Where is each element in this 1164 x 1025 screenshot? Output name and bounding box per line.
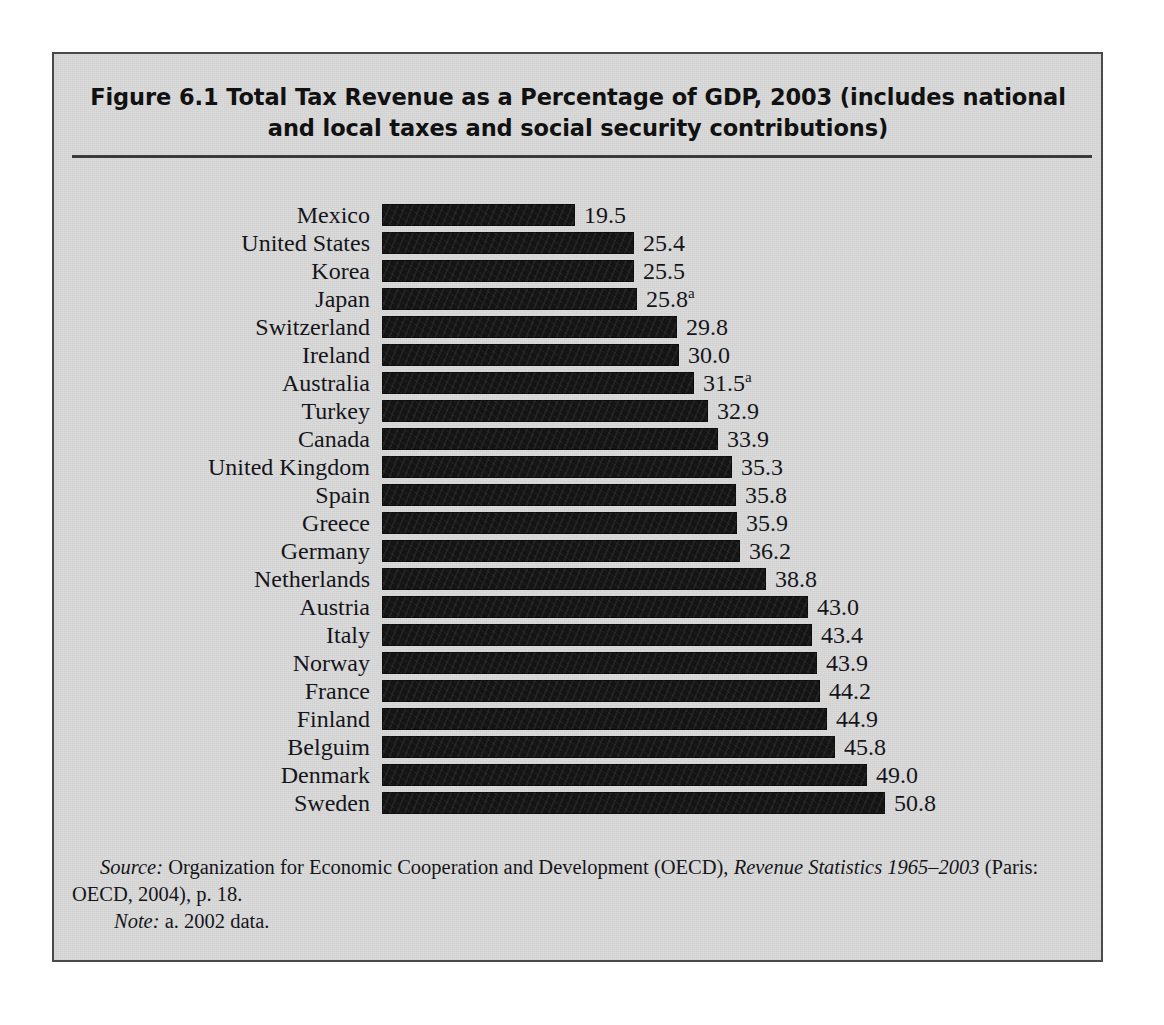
bar-track <box>382 624 812 646</box>
bar-category-label: Korea <box>50 258 370 284</box>
bar-value-label: 25.8a <box>637 286 695 312</box>
note-label: Note: <box>114 910 160 932</box>
bar-fill <box>382 400 708 422</box>
bar-value-label: 43.9 <box>817 650 868 676</box>
bar-row: United States25.4 <box>54 230 1101 258</box>
bar-track <box>382 316 677 338</box>
bar-track <box>382 652 817 674</box>
bar-category-label: Australia <box>50 370 370 396</box>
bar-fill <box>382 764 867 786</box>
bar-row: Mexico19.5 <box>54 202 1101 230</box>
bar-track <box>382 736 835 758</box>
bar-category-label: Sweden <box>50 790 370 816</box>
title-divider-rule <box>72 155 1092 158</box>
bar-fill <box>382 512 737 534</box>
bar-value-label: 25.4 <box>634 230 685 256</box>
bar-value-label: 45.8 <box>835 734 886 760</box>
bar-value-label: 44.2 <box>820 678 871 704</box>
bar-row: Spain35.8 <box>54 482 1101 510</box>
bar-track <box>382 372 694 394</box>
figure-frame: Figure 6.1 Total Tax Revenue as a Percen… <box>52 52 1103 962</box>
bar-category-label: Switzerland <box>50 314 370 340</box>
bar-track <box>382 400 708 422</box>
bar-category-label: Finland <box>50 706 370 732</box>
bar-category-label: United States <box>50 230 370 256</box>
bar-value-label: 25.5 <box>634 258 685 284</box>
bar-fill <box>382 596 808 618</box>
scanned-page: Figure 6.1 Total Tax Revenue as a Percen… <box>0 0 1164 1025</box>
bar-fill <box>382 260 634 282</box>
bar-value-label: 32.9 <box>708 398 759 424</box>
bar-value-label: 35.8 <box>736 482 787 508</box>
bar-track <box>382 540 740 562</box>
bar-fill <box>382 708 827 730</box>
bar-track <box>382 204 575 226</box>
bar-category-label: Italy <box>50 622 370 648</box>
figure-title-line-2: and local taxes and social security cont… <box>72 113 1084 144</box>
bar-track <box>382 484 736 506</box>
bar-category-label: Denmark <box>50 762 370 788</box>
bar-row: Germany36.2 <box>54 538 1101 566</box>
bar-category-label: Norway <box>50 650 370 676</box>
bar-value-label: 36.2 <box>740 538 791 564</box>
bar-row: Denmark49.0 <box>54 762 1101 790</box>
bar-value-label: 43.4 <box>812 622 863 648</box>
bar-category-label: Canada <box>50 426 370 452</box>
bar-row: Finland44.9 <box>54 706 1101 734</box>
bar-value-label: 44.9 <box>827 706 878 732</box>
bar-track <box>382 456 732 478</box>
bar-value-label: 38.8 <box>766 566 817 592</box>
bar-track <box>382 288 637 310</box>
bar-value-label: 49.0 <box>867 762 918 788</box>
bar-category-label: France <box>50 678 370 704</box>
source-publication-title: Revenue Statistics 1965–2003 <box>734 856 980 878</box>
bar-row: Italy43.4 <box>54 622 1101 650</box>
bar-track <box>382 596 808 618</box>
bar-value-label: 35.9 <box>737 510 788 536</box>
bar-track <box>382 260 634 282</box>
bar-track <box>382 512 737 534</box>
bar-category-label: Netherlands <box>50 566 370 592</box>
bar-category-label: Mexico <box>50 202 370 228</box>
bar-row: Japan25.8a <box>54 286 1101 314</box>
bar-fill <box>382 652 817 674</box>
bar-fill <box>382 372 694 394</box>
bar-footnote-marker: a <box>688 285 695 301</box>
bar-row: France44.2 <box>54 678 1101 706</box>
bar-row: United Kingdom35.3 <box>54 454 1101 482</box>
bar-row: Netherlands38.8 <box>54 566 1101 594</box>
bar-fill <box>382 288 637 310</box>
bar-track <box>382 232 634 254</box>
bar-row: Canada33.9 <box>54 426 1101 454</box>
bar-track <box>382 428 718 450</box>
bar-category-label: Japan <box>50 286 370 312</box>
bar-value-label: 43.0 <box>808 594 859 620</box>
bar-value-label: 30.0 <box>679 342 730 368</box>
bar-track <box>382 344 679 366</box>
bar-row: Turkey32.9 <box>54 398 1101 426</box>
bar-fill <box>382 540 740 562</box>
bar-category-label: Austria <box>50 594 370 620</box>
source-label: Source: <box>100 856 163 878</box>
bar-chart: Mexico19.5United States25.4Korea25.5Japa… <box>54 202 1101 818</box>
figure-title-line-1: Figure 6.1 Total Tax Revenue as a Percen… <box>72 82 1084 113</box>
bar-row: Australia31.5a <box>54 370 1101 398</box>
bar-category-label: Ireland <box>50 342 370 368</box>
bar-fill <box>382 624 812 646</box>
bar-category-label: United Kingdom <box>50 454 370 480</box>
bar-row: Austria43.0 <box>54 594 1101 622</box>
bar-footnote-marker: a <box>745 369 752 385</box>
bar-fill <box>382 204 575 226</box>
bar-row: Switzerland29.8 <box>54 314 1101 342</box>
bar-fill <box>382 680 820 702</box>
bar-track <box>382 680 820 702</box>
bar-fill <box>382 484 736 506</box>
note-text: a. 2002 data. <box>160 910 270 932</box>
bar-category-label: Spain <box>50 482 370 508</box>
bar-value-label: 19.5 <box>575 202 626 228</box>
bar-row: Belguim45.8 <box>54 734 1101 762</box>
bar-fill <box>382 344 679 366</box>
bar-value-label: 35.3 <box>732 454 783 480</box>
bar-fill <box>382 568 766 590</box>
bar-value-label: 50.8 <box>885 790 936 816</box>
